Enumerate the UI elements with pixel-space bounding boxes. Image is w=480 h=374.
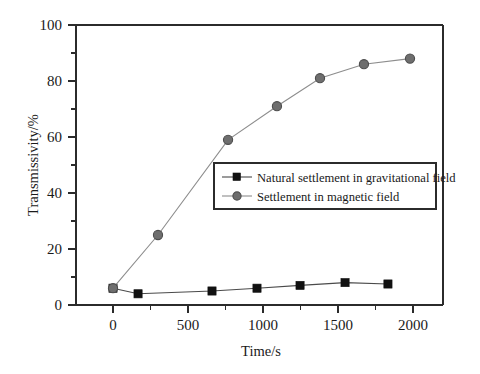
data-point — [223, 135, 232, 144]
y-tick-label-100: 100 — [40, 17, 63, 33]
data-point — [272, 102, 281, 111]
y-tick-label-80: 80 — [47, 73, 62, 89]
x-axis-title: Time/s — [241, 343, 281, 359]
x-axis-tick-labels: 0 500 1000 1500 2000 — [109, 317, 428, 333]
data-point — [341, 279, 349, 287]
x-tick-label-2000: 2000 — [398, 317, 428, 333]
data-point — [359, 60, 368, 69]
y-tick-label-0: 0 — [55, 297, 63, 313]
data-point — [108, 284, 117, 293]
x-tick-label-1000: 1000 — [248, 317, 278, 333]
y-axis-title: Transmissivity/% — [25, 114, 41, 216]
data-point — [315, 74, 324, 83]
y-tick-label-60: 60 — [47, 129, 62, 145]
x-tick-label-0: 0 — [109, 317, 117, 333]
legend-entry-gravitational: Natural settlement in gravitational fiel… — [222, 171, 456, 185]
data-point — [296, 281, 304, 289]
y-tick-label-20: 20 — [47, 241, 62, 257]
y-axis-ticks — [68, 25, 76, 305]
x-tick-label-1500: 1500 — [323, 317, 353, 333]
legend-marker-square-icon — [233, 173, 241, 181]
legend-label-gravitational: Natural settlement in gravitational fiel… — [257, 171, 456, 185]
transmissivity-line-chart: 0 20 40 60 80 100 0 500 1000 1500 2000 — [0, 0, 480, 374]
data-point — [384, 280, 392, 288]
legend-marker-circle-icon — [233, 192, 241, 200]
data-point — [134, 290, 142, 298]
chart-figure: 0 20 40 60 80 100 0 500 1000 1500 2000 — [0, 0, 480, 374]
legend: Natural settlement in gravitational fiel… — [214, 163, 456, 209]
x-tick-label-500: 500 — [177, 317, 200, 333]
x-axis-ticks — [113, 305, 413, 313]
series-gravitational — [109, 279, 392, 298]
data-point — [153, 230, 162, 239]
legend-label-magnetic: Settlement in magnetic field — [257, 190, 400, 204]
data-point — [208, 287, 216, 295]
data-point — [405, 54, 414, 63]
data-point — [253, 284, 261, 292]
y-tick-label-40: 40 — [47, 185, 62, 201]
y-axis-tick-labels: 0 20 40 60 80 100 — [40, 17, 63, 313]
